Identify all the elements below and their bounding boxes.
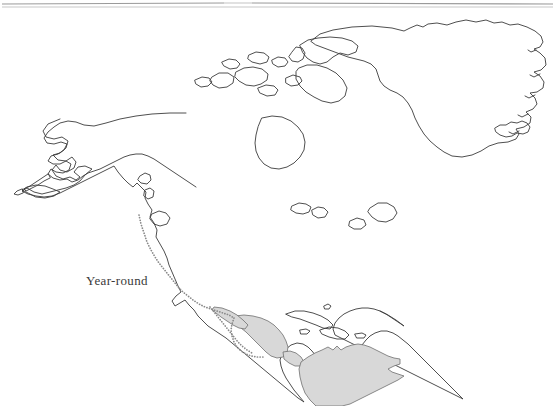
baffin-island-outline [296,65,347,103]
vancouver-island-outline [150,211,170,226]
aleutian-islands-outline [14,174,50,195]
nova-scotia-outline [349,218,366,229]
ellesmere-island-outline [300,37,358,64]
victoria-island-outline [235,67,268,86]
scan-artifact-top-rule [2,3,553,7]
map-canvas [0,0,555,406]
map-page: Year-round [0,0,555,406]
axel-heiberg-outline [289,47,305,62]
alaska-outline [44,113,196,187]
newfoundland-outline [368,203,397,222]
arctic-islands-minor [195,52,302,96]
banks-island-outline [210,73,234,88]
range-label-year-round: Year-round [86,274,148,287]
range-shape-northern-south-america [299,344,404,406]
range-map-figure [0,0,555,406]
jamaica-outline [300,329,310,334]
puerto-rico-outline [355,333,366,338]
great-lakes-outline [291,203,328,218]
cuba-outline [286,311,333,329]
bahamas-outline [324,304,331,309]
hudson-bay-outline [255,116,305,169]
iceland-outline [495,121,530,137]
